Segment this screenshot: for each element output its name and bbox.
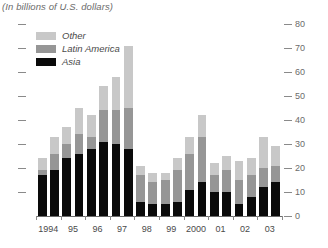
bar-95-h1[interactable] bbox=[62, 127, 71, 216]
bar-98-h2[interactable] bbox=[148, 173, 157, 216]
bar-segment-other bbox=[112, 77, 121, 111]
x-axis-label-99: 99 bbox=[166, 224, 176, 234]
legend-label: Other bbox=[62, 30, 86, 41]
bar-97-h1[interactable] bbox=[112, 77, 121, 216]
bar-segment-other bbox=[271, 146, 280, 165]
legend-label: Latin America bbox=[62, 43, 120, 54]
y-axis-left bbox=[0, 0, 36, 248]
bar-segment-other bbox=[50, 137, 59, 154]
bar-segment-asia bbox=[235, 204, 244, 216]
bar-segment-other bbox=[75, 108, 84, 134]
legend-item-asia[interactable]: Asia bbox=[36, 56, 120, 67]
bar-segment-other bbox=[87, 115, 96, 137]
bar-02-h1[interactable] bbox=[235, 161, 244, 216]
bar-segment-other bbox=[161, 173, 170, 180]
legend-swatch-other-icon bbox=[36, 32, 56, 40]
bar-segment-asia bbox=[87, 149, 96, 216]
bar-segment-latin-america bbox=[222, 170, 231, 192]
bar-segment-other bbox=[136, 166, 145, 176]
y-axis-right-label: 60 bbox=[295, 67, 305, 77]
bar-02-h2[interactable] bbox=[247, 158, 256, 216]
bar-97-h2[interactable] bbox=[124, 46, 133, 216]
bar-03-h2[interactable] bbox=[271, 146, 280, 216]
bar-segment-asia bbox=[161, 204, 170, 216]
bar-03-h1[interactable] bbox=[259, 137, 268, 216]
x-axis-label-01: 01 bbox=[215, 224, 225, 234]
bar-96-h2[interactable] bbox=[99, 86, 108, 216]
x-axis-label-95: 95 bbox=[68, 224, 78, 234]
y-axis-left-tick bbox=[18, 144, 26, 145]
bar-segment-other bbox=[210, 163, 219, 175]
bar-segment-asia bbox=[222, 192, 231, 216]
x-axis-label-1994: 1994 bbox=[38, 224, 58, 234]
x-axis-tick bbox=[61, 216, 62, 220]
chart-legend: OtherLatin AmericaAsia bbox=[36, 30, 120, 69]
bar-segment-other bbox=[148, 173, 157, 183]
bar-01-h1[interactable] bbox=[210, 163, 219, 216]
x-axis-tick bbox=[257, 216, 258, 220]
bar-segment-latin-america bbox=[124, 108, 133, 149]
x-axis-label-2000: 2000 bbox=[186, 224, 206, 234]
bar-segment-asia bbox=[271, 182, 280, 216]
y-axis-left-tick bbox=[18, 24, 26, 25]
x-axis-tick bbox=[208, 216, 209, 220]
legend-item-latin-america[interactable]: Latin America bbox=[36, 43, 120, 54]
bar-segment-asia bbox=[112, 144, 121, 216]
x-axis-label-02: 02 bbox=[240, 224, 250, 234]
bar-segment-asia bbox=[210, 192, 219, 216]
y-axis-right-tick bbox=[284, 72, 292, 73]
x-axis-label-98: 98 bbox=[142, 224, 152, 234]
bar-segment-latin-america bbox=[148, 182, 157, 204]
bar-segment-asia bbox=[247, 197, 256, 216]
y-axis-right-label: 80 bbox=[295, 19, 305, 29]
bar-segment-asia bbox=[99, 142, 108, 216]
bar-2000-h2[interactable] bbox=[198, 115, 207, 216]
bar-segment-asia bbox=[124, 149, 133, 216]
bar-segment-other bbox=[247, 158, 256, 175]
bar-1994-h2[interactable] bbox=[50, 137, 59, 216]
y-axis-right-tick bbox=[284, 168, 292, 169]
y-axis-right-tick bbox=[284, 120, 292, 121]
bar-99-h1[interactable] bbox=[161, 173, 170, 216]
bar-96-h1[interactable] bbox=[87, 115, 96, 216]
bar-segment-latin-america bbox=[99, 110, 108, 141]
x-axis-tick bbox=[36, 216, 37, 220]
x-axis-tick bbox=[159, 216, 160, 220]
y-axis-left-tick bbox=[18, 192, 26, 193]
bar-segment-other bbox=[38, 158, 47, 170]
bar-segment-asia bbox=[259, 187, 268, 216]
bar-99-h2[interactable] bbox=[173, 158, 182, 216]
x-axis-tick bbox=[110, 216, 111, 220]
bar-2000-h1[interactable] bbox=[185, 137, 194, 216]
x-axis-label-03: 03 bbox=[265, 224, 275, 234]
x-axis-tick bbox=[282, 216, 283, 220]
bar-segment-other bbox=[198, 115, 207, 137]
bar-segment-latin-america bbox=[235, 180, 244, 204]
y-axis-right-tick bbox=[284, 216, 292, 217]
legend-swatch-asia-icon bbox=[36, 58, 56, 66]
y-axis-left-tick bbox=[18, 120, 26, 121]
y-axis-right-label: 0 bbox=[295, 211, 300, 221]
y-axis-right-label: 10 bbox=[295, 187, 305, 197]
y-axis-right-tick bbox=[284, 24, 292, 25]
y-axis-right-label: 40 bbox=[295, 115, 305, 125]
legend-item-other[interactable]: Other bbox=[36, 30, 120, 41]
bar-98-h1[interactable] bbox=[136, 166, 145, 216]
y-axis-right-tick bbox=[284, 144, 292, 145]
bar-1994-h1[interactable] bbox=[38, 158, 47, 216]
legend-swatch-latin-america-icon bbox=[36, 45, 56, 53]
bar-segment-asia bbox=[136, 202, 145, 216]
y-axis-right: 80706050403020100 bbox=[282, 0, 328, 248]
bar-segment-other bbox=[235, 161, 244, 180]
bar-segment-other bbox=[99, 86, 108, 110]
y-axis-right-label: 20 bbox=[295, 163, 305, 173]
bar-segment-latin-america bbox=[75, 134, 84, 153]
legend-label: Asia bbox=[62, 56, 80, 67]
bar-segment-asia bbox=[50, 170, 59, 216]
y-axis-right-tick bbox=[284, 48, 292, 49]
bar-95-h2[interactable] bbox=[75, 108, 84, 216]
y-axis-right-label: 50 bbox=[295, 91, 305, 101]
bar-01-h2[interactable] bbox=[222, 156, 231, 216]
bar-segment-latin-america bbox=[185, 154, 194, 190]
bar-segment-other bbox=[185, 137, 194, 154]
